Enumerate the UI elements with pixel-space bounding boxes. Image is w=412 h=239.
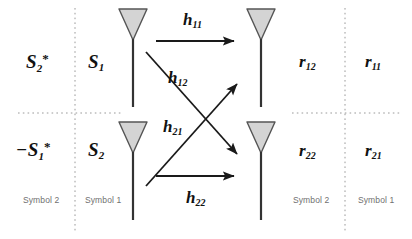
tx-symbol-neg-s1-conj: −S1* <box>16 140 51 162</box>
channel-label-h22: h22 <box>186 189 205 208</box>
tx-symbol-neg-s1-conj-base: S <box>28 139 39 160</box>
diagram-canvas <box>0 0 412 239</box>
rx-symbol-r22-sub: 22 <box>306 150 316 161</box>
rx-symbol-r21-sub: 21 <box>372 150 382 161</box>
tx-symbol-s1: S1 <box>88 52 104 73</box>
caption-tx-symbol-1: Symbol 1 <box>85 196 121 205</box>
rx-symbol-r21: r21 <box>365 142 382 161</box>
transmit-antenna-2 <box>119 122 147 220</box>
channel-path-h21 <box>146 84 237 186</box>
tx-symbol-s2-sub: 2 <box>99 149 105 161</box>
tx-symbol-s2-conj-base: S <box>26 51 37 72</box>
channel-label-h21: h21 <box>163 118 182 137</box>
rx-symbol-r22: r22 <box>299 142 316 161</box>
transmit-antenna-1 <box>119 9 147 107</box>
tx-symbol-s1-base: S <box>88 51 99 72</box>
receive-antenna-2 <box>247 122 275 220</box>
channel-label-h12: h12 <box>168 69 187 88</box>
rx-symbol-r22-base: r <box>299 141 306 160</box>
rx-symbol-r12-base: r <box>299 52 306 71</box>
caption-rx-symbol-2: Symbol 2 <box>293 196 329 205</box>
tx-symbol-neg-s1-conj-prefix: − <box>16 139 28 160</box>
rx-symbol-r11-base: r <box>365 52 372 71</box>
rx-symbol-r11: r11 <box>365 53 381 72</box>
channel-label-h21-sub: 21 <box>172 126 182 137</box>
rx-symbol-r11-sub: 11 <box>372 61 381 72</box>
tx-symbol-s1-sub: 1 <box>99 61 105 73</box>
channel-label-h22-sub: 22 <box>195 197 205 208</box>
channel-label-h11: h11 <box>183 11 202 30</box>
channel-label-h12-sub: 12 <box>177 77 187 88</box>
rx-symbol-r12: r12 <box>299 53 316 72</box>
tx-symbol-s2-conj-sup: * <box>42 51 49 66</box>
caption-tx-symbol-2: Symbol 2 <box>23 196 59 205</box>
rx-symbol-r12-sub: 12 <box>306 61 316 72</box>
channel-path-h12 <box>146 52 237 154</box>
tx-symbol-s2-conj: S2* <box>26 52 49 74</box>
rx-symbol-r21-base: r <box>365 141 372 160</box>
mimo-channel-diagram: S2* S1 −S1* S2 r12 r11 r22 r21 h11 h12 h… <box>0 0 412 239</box>
channel-label-h11-sub: 11 <box>192 19 201 30</box>
tx-symbol-neg-s1-conj-sup: * <box>44 139 51 154</box>
tx-symbol-s2: S2 <box>88 140 104 161</box>
receive-antenna-1 <box>247 9 275 107</box>
tx-symbol-s2-base: S <box>88 139 99 160</box>
caption-rx-symbol-1: Symbol 1 <box>358 196 394 205</box>
